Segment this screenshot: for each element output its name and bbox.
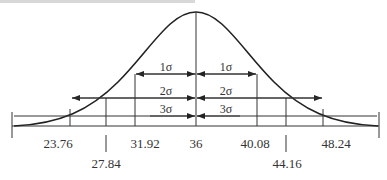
2-sigma-right-label: 2σ [220, 84, 233, 98]
label-48-24: 48.24 [321, 136, 351, 151]
label-31-92: 31.92 [130, 136, 159, 151]
normal-distribution-diagram: 1σ 1σ 2σ 2σ 3σ 3σ 23.76 27.84 31.92 36 4… [0, 0, 387, 180]
cropped-caption-text [0, 0, 195, 3]
3-sigma-left-label: 3σ [160, 102, 173, 116]
label-23-76: 23.76 [43, 136, 73, 151]
label-36: 36 [190, 136, 204, 151]
label-27-84: 27.84 [91, 156, 121, 171]
1-sigma-left-label: 1σ [160, 60, 173, 74]
3-sigma-right-label: 3σ [220, 102, 233, 116]
label-44-16: 44.16 [272, 156, 302, 171]
1-sigma-right-label: 1σ [220, 60, 233, 74]
label-40-08: 40.08 [240, 136, 269, 151]
2-sigma-left-label: 2σ [160, 84, 173, 98]
